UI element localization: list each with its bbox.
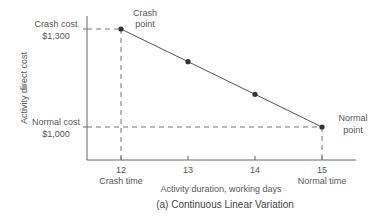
- data-point: [252, 92, 257, 97]
- x-tick-sublabel: Normal time: [298, 176, 347, 186]
- point-annotation-label: point: [135, 19, 155, 29]
- data-point: [118, 26, 123, 31]
- x-tick-sublabel: Crash time: [99, 176, 143, 186]
- point-annotation-label: Normal: [338, 113, 367, 123]
- x-tick-label: 12: [116, 165, 126, 175]
- x-tick-label: 14: [250, 165, 260, 175]
- x-tick-label: 13: [183, 165, 193, 175]
- y-annotation-value: $1,300: [42, 31, 70, 41]
- point-annotation-label: Crash: [133, 8, 157, 18]
- chart: Activity direct cost Activity duration, …: [0, 0, 377, 221]
- y-annotation-label: Crash cost: [34, 19, 78, 29]
- x-axis-label: Activity duration, working days: [160, 184, 282, 194]
- cost-line: [121, 29, 322, 127]
- data-point: [319, 124, 324, 129]
- x-tick-label: 15: [317, 165, 327, 175]
- y-annotation-label: Normal cost: [32, 117, 81, 127]
- y-axis-label: Activity direct cost: [19, 51, 29, 124]
- point-annotation-label: point: [343, 125, 363, 135]
- chart-caption: (a) Continuous Linear Variation: [156, 199, 294, 210]
- data-point: [185, 59, 190, 64]
- y-annotation-value: $1,000: [42, 129, 70, 139]
